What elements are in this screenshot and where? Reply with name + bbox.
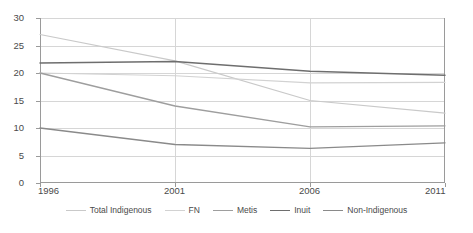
legend-label-metis: Metis bbox=[237, 206, 257, 215]
y-tick-label-5: 5 bbox=[0, 151, 24, 161]
legend-swatch-fn bbox=[165, 210, 185, 211]
line-chart: 051015202530 1996200120062011 Total Indi… bbox=[0, 0, 473, 233]
x-tick-label-1996: 1996 bbox=[38, 186, 59, 196]
y-tick-label-25: 25 bbox=[0, 41, 24, 51]
x-tick-label-2006: 2006 bbox=[299, 186, 320, 196]
y-tick-label-30: 30 bbox=[0, 13, 24, 23]
legend-swatch-inuit bbox=[270, 210, 290, 211]
y-tick-label-0: 0 bbox=[0, 178, 24, 188]
x-tickmark-2006 bbox=[310, 183, 311, 187]
legend-label-inuit: Inuit bbox=[294, 206, 310, 215]
legend-item-metis[interactable]: Metis bbox=[213, 206, 257, 215]
chart-legend: Total IndigenousFNMetisInuitNon-Indigeno… bbox=[0, 206, 473, 215]
legend-item-inuit[interactable]: Inuit bbox=[270, 206, 310, 215]
legend-swatch-metis bbox=[213, 210, 233, 211]
series-line-inuit bbox=[40, 61, 445, 75]
x-tickmark-2011 bbox=[445, 183, 446, 187]
x-tickmark-1996 bbox=[40, 183, 41, 187]
x-tick-label-2001: 2001 bbox=[164, 186, 185, 196]
series-lines bbox=[40, 18, 445, 183]
y-tick-label-10: 10 bbox=[0, 123, 24, 133]
legend-label-total-indigenous: Total Indigenous bbox=[90, 206, 152, 215]
x-tick-label-2011: 2011 bbox=[425, 186, 445, 196]
legend-swatch-total-indigenous bbox=[66, 210, 86, 211]
legend-label-fn: FN bbox=[189, 206, 200, 215]
plot-area bbox=[40, 18, 445, 183]
legend-swatch-non-indigenous bbox=[323, 210, 343, 211]
legend-item-non-indigenous[interactable]: Non-Indigenous bbox=[323, 206, 407, 215]
y-tick-label-15: 15 bbox=[0, 96, 24, 106]
x-tickmark-2001 bbox=[175, 183, 176, 187]
legend-item-fn[interactable]: FN bbox=[165, 206, 200, 215]
series-line-fn bbox=[40, 73, 445, 83]
legend-item-total-indigenous[interactable]: Total Indigenous bbox=[66, 206, 152, 215]
legend-label-non-indigenous: Non-Indigenous bbox=[347, 206, 407, 215]
series-line-non-indigenous bbox=[40, 128, 445, 148]
y-tick-label-20: 20 bbox=[0, 68, 24, 78]
